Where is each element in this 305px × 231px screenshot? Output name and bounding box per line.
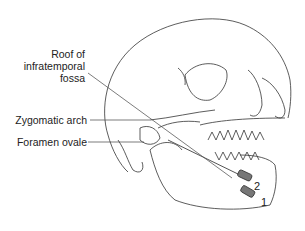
label-roof-infratemporal-fossa: Roof of infratemporal fossa — [24, 48, 85, 84]
label-line: fossa — [24, 72, 85, 84]
label-line: Roof of — [24, 48, 85, 60]
label-zygomatic-arch: Zygomatic arch — [15, 114, 87, 126]
needle-number-2: 2 — [254, 180, 260, 192]
label-foramen-ovale: Foramen ovale — [17, 136, 87, 148]
cranium-outline — [105, 19, 291, 135]
needle-number-1: 1 — [261, 196, 267, 208]
label-line: infratemporal — [24, 60, 85, 72]
orbit — [185, 64, 227, 101]
needle-hub-2 — [237, 169, 253, 181]
